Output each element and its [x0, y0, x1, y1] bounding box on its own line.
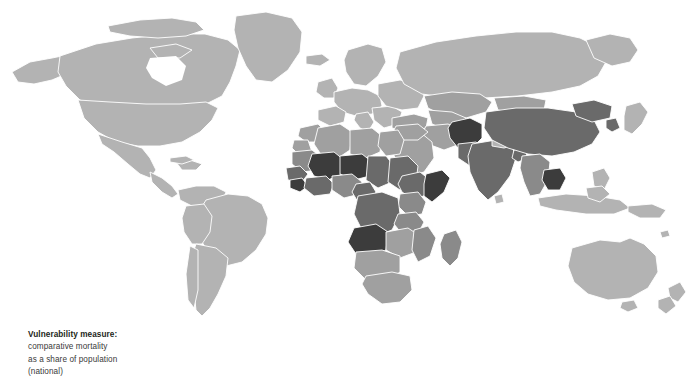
caption-line-1: comparative mortality: [28, 341, 208, 353]
country-libya[interactable]: [350, 128, 382, 158]
caption-line-2: as a share of population: [28, 354, 208, 366]
map-caption: Vulnerability measure: comparative morta…: [28, 329, 208, 379]
country-sri-lanka[interactable]: [494, 194, 504, 204]
caption-title: Vulnerability measure:: [28, 329, 208, 341]
caption-line-3: (national): [28, 366, 208, 378]
world-vulnerability-map-figure: Vulnerability measure: comparative morta…: [0, 0, 700, 386]
world-choropleth-map[interactable]: [0, 0, 700, 330]
country-pacific-islands[interactable]: [660, 230, 670, 238]
